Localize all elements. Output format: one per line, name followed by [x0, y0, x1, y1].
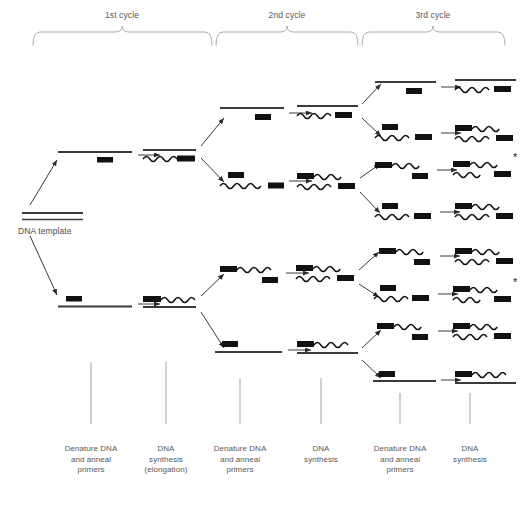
molecule-c3-synth-5	[455, 248, 513, 265]
col-label-line: primers	[354, 465, 446, 476]
col-label-synthesis-3: DNA synthesis	[424, 444, 516, 465]
asterisk-target-upper: *	[513, 152, 517, 163]
molecule-c3-denature-7	[377, 323, 428, 340]
molecule-c1-denature-top	[58, 152, 132, 163]
molecule-c3-denature-5	[379, 248, 430, 265]
arrows-c2-synthesis	[286, 113, 312, 350]
molecule-c3-denature-1	[375, 82, 436, 94]
molecule-c2-denature-4	[215, 341, 282, 352]
col-label-line: DNA	[424, 444, 516, 455]
split-arrows-c2-to-c3	[359, 84, 381, 378]
molecule-c3-synth-3	[453, 161, 511, 178]
molecule-c2-synth-1	[297, 106, 358, 119]
col-label-line: synthesis	[424, 455, 516, 466]
molecule-c3-synth-7	[453, 323, 511, 340]
molecule-c3-denature-4	[375, 203, 431, 220]
molecule-c3-denature-3	[375, 162, 428, 179]
molecule-c3-synth-8	[455, 371, 516, 383]
molecule-c1-synth-top	[143, 150, 196, 162]
dna-template-duplex	[22, 213, 83, 220]
molecule-c1-synth-bottom	[143, 296, 196, 307]
molecule-c3-denature-6	[374, 285, 429, 302]
col-label-line: Denature DNA	[194, 444, 286, 455]
molecule-c3-denature-2	[375, 124, 432, 141]
molecule-c2-denature-3	[220, 266, 278, 283]
molecules-layer	[0, 0, 527, 515]
molecule-c3-denature-8	[373, 371, 436, 381]
col-label-line: primers	[194, 465, 286, 476]
molecule-c1-denature-bottom	[58, 296, 132, 307]
molecule-c2-denature-2	[220, 172, 284, 189]
molecule-c3-synth-6	[453, 286, 511, 303]
molecule-c2-denature-1	[220, 108, 284, 120]
pcr-diagram: 1st cycle 2nd cycle 3rd cycle	[0, 0, 527, 515]
split-arrows-c1-to-c2	[201, 118, 224, 348]
asterisk-target-lower: *	[513, 277, 517, 288]
molecule-c3-synth-4	[455, 203, 513, 220]
molecule-c3-synth-1	[455, 80, 516, 93]
col-label-denature-2: Denature DNA and anneal primers	[194, 444, 286, 476]
molecule-c3-synth-2	[455, 125, 513, 142]
column-ticks	[91, 362, 470, 424]
dna-template-label: DNA template	[18, 226, 72, 236]
col-label-line: and anneal	[194, 455, 286, 466]
molecule-c2-synth-4	[297, 341, 358, 353]
